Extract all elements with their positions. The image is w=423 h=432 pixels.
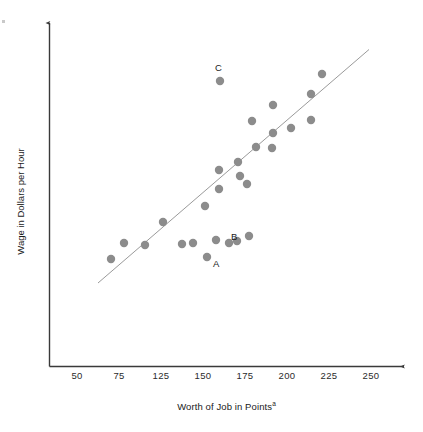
data-point [243,180,251,188]
x-tick-label-3: 150 [188,370,218,381]
data-point [189,239,197,247]
regression-line [98,50,369,284]
x-axis-title-text: Worth of Job in Points [177,401,272,412]
data-point [215,166,223,174]
x-tick-label-4: 175 [230,370,260,381]
data-point [107,255,115,263]
scatter-plot-figure: 50 75 125 150 175 200 225 250 C B A Wort… [0,0,423,432]
data-point [268,144,276,152]
x-tick-label-2: 125 [146,370,176,381]
data-point-c [216,77,224,85]
data-point [178,240,186,248]
data-point [234,158,242,166]
data-point [201,202,209,210]
data-point-b [245,232,253,240]
data-point [141,241,149,249]
y-axis-title-wrapper: Wage in Dollars per Hour [0,0,36,432]
x-tick-label-7: 250 [356,370,386,381]
data-point [318,70,326,78]
data-point [159,218,167,226]
plot-canvas [0,0,423,432]
data-point [236,172,244,180]
trendline-group [98,50,369,284]
x-tick-label-0: 50 [62,370,92,381]
y-axis-title: Wage in Dollars per Hour [15,102,26,302]
point-annotation-b: B [231,232,237,242]
point-annotation-c: C [215,63,222,73]
point-annotation-a: A [213,259,219,269]
data-point [307,116,315,124]
x-axis-title-footnote-marker: a [272,400,276,407]
data-point [248,117,256,125]
data-point [215,185,223,193]
data-point [269,101,277,109]
data-point [120,239,128,247]
x-axis-title: Worth of Job in Pointsa [0,401,423,412]
data-points-group [107,70,326,263]
data-point [212,236,220,244]
x-tick-label-5: 200 [272,370,302,381]
data-point [307,90,315,98]
data-point [252,143,260,151]
x-tick-label-1: 75 [104,370,134,381]
axes-group [50,23,405,367]
data-point [269,129,277,137]
data-point-a [203,253,211,261]
x-tick-label-6: 225 [314,370,344,381]
data-point [287,124,295,132]
